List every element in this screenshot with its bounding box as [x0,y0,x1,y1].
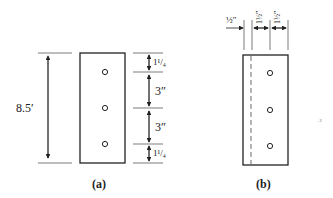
dim-edge-bottom: 1¹/₄ [153,149,166,158]
caption-b: (b) [256,177,271,192]
figure-a [38,53,163,163]
dim-gauge-2: 1½″ [273,11,282,24]
dim-pitch-2: 3″ [155,121,166,133]
dim-pitch-1: 3″ [155,85,166,97]
hole-icon [102,69,107,74]
svg-text:.ɤ: .ɤ [318,117,323,123]
figure-b: .ɤ [226,20,323,165]
dim-offset-label: ½″ [226,16,237,25]
overall-height-label: 8.5′ [16,102,34,114]
hole-icon [102,141,107,146]
caption-a: (a) [92,177,106,192]
plate-b [243,55,288,165]
dim-gauge-1: 1½″ [255,11,264,24]
hole-icon [267,143,272,148]
hole-icon [267,107,272,112]
dim-edge-top: 1¹/₄ [153,58,166,67]
hole-icon [267,70,272,75]
diagram-canvas: .ɤ [0,0,333,198]
hole-icon [102,105,107,110]
